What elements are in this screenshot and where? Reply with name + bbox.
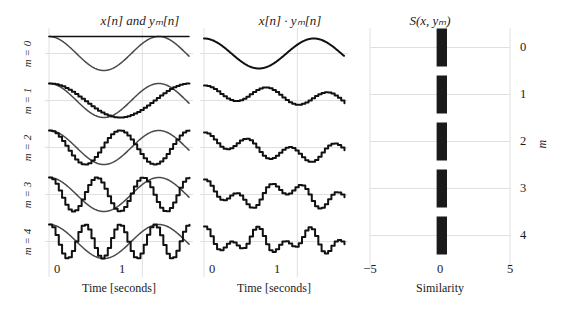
similarity-bar-m2	[437, 123, 447, 161]
m-tick-4: 4	[515, 228, 531, 243]
middle-xaxis-label: Time [seconds]	[204, 281, 344, 296]
similarity-xtick-neg5: −5	[357, 262, 383, 277]
similarity-bar-m0	[437, 29, 447, 67]
left-xtick-0: 0	[45, 262, 69, 277]
m-tick-1: 1	[515, 87, 531, 102]
middle-xtick-0: 0	[200, 262, 224, 277]
similarity-bar-m4	[437, 217, 447, 255]
left-xtick-1: 1	[110, 262, 134, 277]
similarity-xaxis-label: Similarity	[380, 281, 500, 296]
similarity-bar-m1	[437, 76, 447, 114]
m-tick-3: 3	[515, 181, 531, 196]
similarity-xtick-5: 5	[497, 262, 523, 277]
m-tick-0: 0	[515, 40, 531, 55]
figure-canvas: x[n] and yₘ[n] x[n] · yₘ[n] S(x, yₘ) m =…	[0, 0, 566, 312]
product-curve-m4	[204, 227, 344, 254]
similarity-bar-m3	[437, 170, 447, 208]
similarity-xtick-0: 0	[427, 262, 453, 277]
m-tick-2: 2	[515, 134, 531, 149]
left-xaxis-label: Time [seconds]	[49, 281, 189, 296]
m-axis-label: m	[535, 135, 550, 149]
product-curve-m1	[204, 86, 344, 105]
middle-xtick-1: 1	[265, 262, 289, 277]
